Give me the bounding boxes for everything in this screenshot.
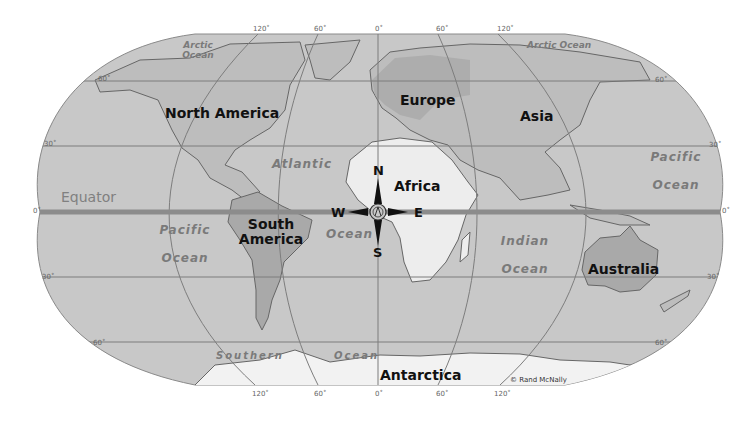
label-asia: Asia bbox=[520, 109, 553, 124]
lon-tick-top-60e: 60˚ bbox=[436, 26, 448, 33]
lon-tick-top-60w: 60˚ bbox=[314, 26, 326, 33]
label-atlantic-ocean: Ocean bbox=[326, 220, 373, 248]
copyright-credit: © Rand McNally bbox=[510, 377, 567, 384]
lon-tick-top-120w: 120˚ bbox=[253, 26, 270, 33]
label-antarctica: Antarctica bbox=[380, 368, 461, 383]
label-southern: Southern bbox=[216, 342, 284, 370]
compass-south: S bbox=[373, 246, 382, 259]
lon-tick-top-120e: 120˚ bbox=[497, 26, 514, 33]
label-arctic-ocean-right: Arctic Ocean bbox=[527, 40, 591, 50]
label-south-america: South America bbox=[235, 217, 307, 247]
lat-tick-right-0: 0˚ bbox=[722, 208, 730, 215]
label-equator: Equator bbox=[61, 190, 116, 204]
label-australia: Australia bbox=[588, 262, 659, 277]
lat-tick-left-30n: 30˚ bbox=[44, 141, 56, 148]
lat-tick-right-30n: 30˚ bbox=[709, 142, 721, 149]
lat-tick-right-30s: 30˚ bbox=[707, 274, 719, 281]
lon-tick-bottom-60e: 60˚ bbox=[436, 391, 448, 398]
label-arctic-ocean-left: Arctic Ocean bbox=[180, 40, 216, 60]
label-indian-ocean: Indian Ocean bbox=[498, 227, 552, 283]
lon-tick-bottom-120e: 120˚ bbox=[494, 391, 511, 398]
label-atlantic: Atlantic bbox=[272, 150, 332, 178]
lon-tick-bottom-60w: 60˚ bbox=[314, 391, 326, 398]
lon-tick-bottom-0: 0˚ bbox=[375, 391, 383, 398]
lat-tick-right-60s: 60˚ bbox=[655, 340, 667, 347]
compass-north: N bbox=[373, 164, 384, 177]
label-europe: Europe bbox=[400, 93, 456, 108]
lon-tick-bottom-120w: 120˚ bbox=[252, 391, 269, 398]
label-north-america: North America bbox=[165, 106, 279, 121]
compass-west: W bbox=[331, 206, 345, 219]
label-pacific-ocean-right: Pacific Ocean bbox=[645, 143, 707, 199]
label-africa: Africa bbox=[394, 179, 440, 194]
lat-tick-left-60n: 60˚ bbox=[98, 76, 110, 83]
lat-tick-right-60n: 60˚ bbox=[655, 77, 667, 84]
lon-tick-top-0: 0˚ bbox=[375, 26, 383, 33]
lat-tick-left-60s: 60˚ bbox=[93, 340, 105, 347]
compass-east: E bbox=[414, 206, 423, 219]
label-pacific-ocean-left: Pacific Ocean bbox=[155, 216, 215, 272]
lat-tick-left-30s: 30˚ bbox=[42, 274, 54, 281]
lat-tick-left-0: 0˚ bbox=[33, 208, 41, 215]
label-southern-ocean: Ocean bbox=[334, 342, 379, 370]
